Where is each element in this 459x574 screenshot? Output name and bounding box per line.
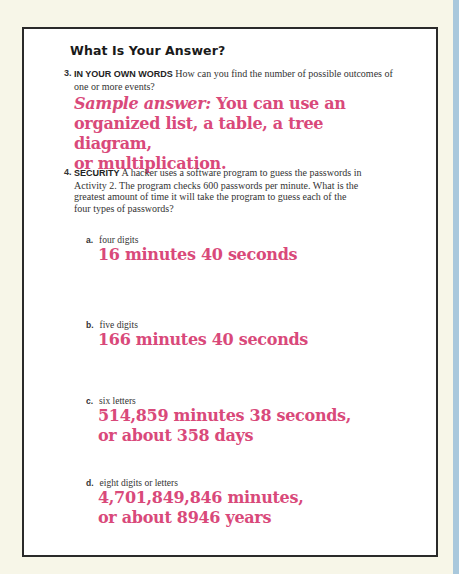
part-a: a.four digits 16 minutes 40 seconds: [86, 235, 297, 265]
part-letter: b.: [86, 320, 94, 330]
part-label: four digits: [99, 235, 138, 245]
answer-line: or about 358 days: [98, 426, 351, 446]
part-answer: 514,859 minutes 38 seconds, or about 358…: [98, 406, 351, 446]
answer-line: 166 minutes 40 seconds: [98, 330, 308, 350]
part-label: five digits: [100, 320, 138, 330]
part-letter: c.: [86, 396, 93, 406]
question-number: 3.: [64, 68, 72, 80]
part-label: six letters: [99, 396, 136, 406]
question-heading: IN YOUR OWN WORDS: [74, 69, 173, 79]
question-heading: SECURITY: [74, 168, 120, 178]
part-d: d.eight digits or letters 4,701,849,846 …: [86, 478, 303, 528]
part-answer: 166 minutes 40 seconds: [98, 330, 308, 350]
part-label: eight digits or letters: [100, 478, 178, 488]
section-title: What Is Your Answer?: [70, 43, 225, 58]
answer-line: or about 8946 years: [98, 508, 303, 528]
part-letter: a.: [86, 235, 93, 245]
answer-line: 4,701,849,846 minutes,: [98, 488, 303, 508]
part-answer: 4,701,849,846 minutes, or about 8946 yea…: [98, 488, 303, 528]
question-4: 4. SECURITY A hacker uses a software pro…: [74, 167, 364, 214]
page-edge-strip: [453, 0, 459, 574]
question-number: 4.: [64, 167, 72, 179]
answer-lead: Sample answer:: [74, 94, 211, 113]
answer-line: 16 minutes 40 seconds: [98, 245, 297, 265]
answer-line: organized list, a table, a tree diagram,: [74, 114, 394, 154]
answer-line: 514,859 minutes 38 seconds,: [98, 406, 351, 426]
part-c: c.six letters 514,859 minutes 38 seconds…: [86, 396, 351, 446]
answer: Sample answer: You can use an organized …: [74, 94, 394, 174]
part-b: b.five digits 166 minutes 40 seconds: [86, 320, 308, 350]
part-answer: 16 minutes 40 seconds: [98, 245, 297, 265]
question-3: 3. IN YOUR OWN WORDS How can you find th…: [74, 68, 394, 174]
answer-line: You can use an: [216, 94, 345, 113]
answer-box: What Is Your Answer? 3. IN YOUR OWN WORD…: [22, 27, 438, 557]
part-letter: d.: [86, 478, 94, 488]
